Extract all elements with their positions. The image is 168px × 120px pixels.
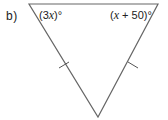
angle-label-top-right: (x + 50)° — [110, 8, 152, 23]
angle-left-prefix: (3 — [39, 9, 49, 21]
right-side-tick-mark — [128, 62, 138, 68]
angle-left-suffix: )° — [54, 9, 62, 21]
angle-right-suffix: + 50)° — [119, 9, 152, 21]
isosceles-triangle-figure: b) (3x)° (x + 50)° — [0, 0, 168, 120]
angle-label-top-left: (3x)° — [39, 8, 62, 23]
